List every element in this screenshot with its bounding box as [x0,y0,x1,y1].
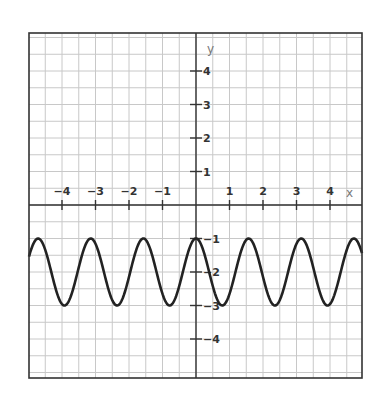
x-tick-label: −4 [54,185,71,198]
y-tick-label: 3 [203,99,211,112]
y-tick-label: 1 [203,166,211,179]
x-tick-label: −3 [87,185,104,198]
x-tick-label: 1 [226,185,234,198]
x-tick-label: −2 [121,185,138,198]
y-tick-label: 4 [203,65,211,78]
x-tick-label: 4 [326,185,334,198]
y-tick-label: 2 [203,132,211,145]
y-axis-label: y [207,42,214,56]
x-tick-label: −1 [154,185,171,198]
x-tick-label: 2 [259,185,267,198]
y-tick-label: −4 [203,333,220,346]
coordinate-plane: −4−3−2−112344321−1−2−3−4 x y [0,0,373,397]
y-tick-label: −1 [203,233,220,246]
x-axis-label: x [346,186,353,200]
x-tick-label: 3 [293,185,301,198]
